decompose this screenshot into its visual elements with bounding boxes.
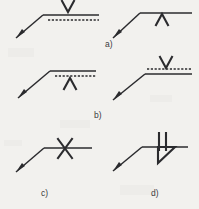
welding-symbol-figure: a) b) c) bbox=[0, 0, 199, 209]
caption-b: b) bbox=[94, 110, 102, 120]
caption-a: a) bbox=[105, 39, 113, 49]
caption-c: c) bbox=[41, 188, 48, 198]
figure-canvas: a) b) c) bbox=[0, 0, 199, 209]
figure-background bbox=[0, 0, 199, 209]
